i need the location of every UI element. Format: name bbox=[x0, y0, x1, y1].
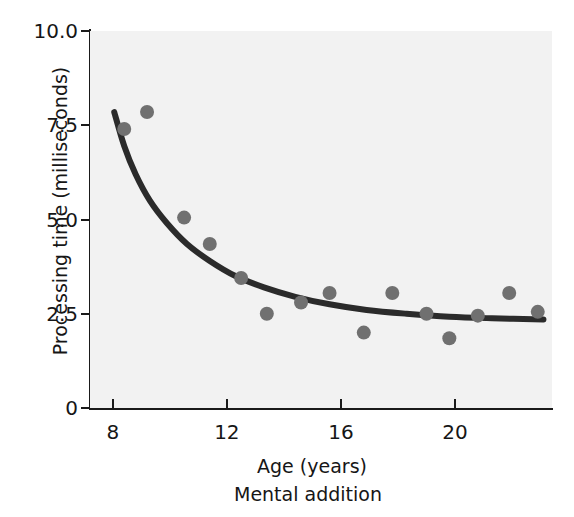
data-point bbox=[203, 237, 217, 251]
data-point bbox=[471, 309, 485, 323]
plot-canvas bbox=[90, 31, 552, 408]
x-tick-mark bbox=[226, 399, 228, 409]
y-tick-mark bbox=[81, 124, 90, 126]
x-tick-label: 12 bbox=[197, 420, 257, 444]
x-tick-mark bbox=[112, 399, 114, 409]
x-tick-label: 8 bbox=[83, 420, 143, 444]
y-tick-label: 2.5 bbox=[22, 302, 78, 326]
y-tick-mark bbox=[81, 219, 90, 221]
data-point bbox=[177, 211, 191, 225]
data-point bbox=[323, 286, 337, 300]
y-tick-label: 7.5 bbox=[22, 113, 78, 137]
data-point bbox=[385, 286, 399, 300]
data-point bbox=[140, 105, 154, 119]
data-point bbox=[234, 271, 248, 285]
y-tick-label: 5.0 bbox=[22, 208, 78, 232]
data-points-group bbox=[117, 105, 545, 345]
data-point bbox=[531, 305, 545, 319]
y-tick-label: 0 bbox=[22, 396, 78, 420]
data-point bbox=[117, 122, 131, 136]
y-tick-mark bbox=[81, 407, 90, 409]
x-tick-label: 16 bbox=[311, 420, 371, 444]
data-point bbox=[442, 331, 456, 345]
x-tick-mark bbox=[454, 399, 456, 409]
y-tick-mark bbox=[81, 313, 90, 315]
x-tick-mark bbox=[340, 399, 342, 409]
y-axis-tick-labels: 10.07.55.02.50 bbox=[22, 0, 78, 517]
data-point bbox=[502, 286, 516, 300]
y-tick-label: 10.0 bbox=[22, 19, 78, 43]
chart-figure: Processing time (milliseconds) 10.07.55.… bbox=[0, 0, 574, 517]
data-point bbox=[294, 295, 308, 309]
y-tick-mark bbox=[81, 30, 90, 32]
chart-caption: Mental addition bbox=[0, 483, 574, 505]
data-point bbox=[420, 307, 434, 321]
data-point bbox=[260, 307, 274, 321]
data-point bbox=[357, 326, 371, 340]
x-tick-label: 20 bbox=[425, 420, 485, 444]
x-axis-line bbox=[89, 408, 553, 410]
plot-area bbox=[90, 31, 552, 408]
x-axis-title: Age (years) bbox=[0, 455, 574, 477]
